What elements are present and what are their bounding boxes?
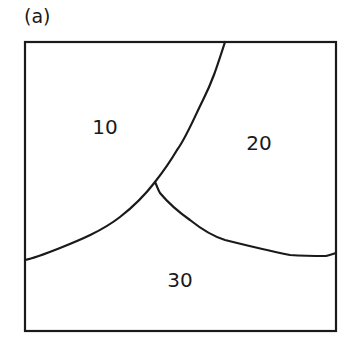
boundary-20-30 bbox=[155, 182, 336, 256]
region-label-20: 20 bbox=[246, 131, 271, 155]
region-label-30: 30 bbox=[167, 268, 192, 292]
boundary-10-left bbox=[25, 42, 225, 260]
region-label-10: 10 bbox=[92, 115, 117, 139]
